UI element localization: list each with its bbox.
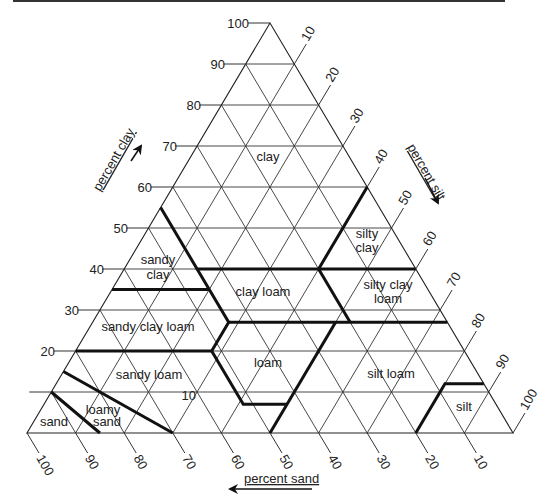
clay-tick-20: 20 (41, 344, 55, 359)
silt-tick-40: 40 (371, 146, 391, 166)
region-silt: silt (456, 399, 472, 414)
sand-tick-20: 20 (422, 452, 442, 472)
silt-tick-60: 60 (419, 228, 439, 248)
silt-tick-30: 30 (347, 105, 367, 125)
sand-tick-70: 70 (179, 452, 199, 472)
sand-tick-60: 60 (228, 452, 248, 472)
sand-tick-80: 80 (131, 452, 151, 472)
silt-axis-labels: 102030405060708090100 (298, 23, 541, 412)
sand-axis-title: percent sand (230, 471, 319, 489)
clay-tick-10: 10 (182, 388, 196, 403)
sand-tick-100: 100 (33, 452, 57, 478)
clay-tick-80: 80 (187, 98, 201, 113)
silt-tick-50: 50 (395, 187, 415, 207)
region-loamy-sand-2: sand (93, 414, 121, 429)
region-silty-clay-loam-1: silty clay (363, 277, 413, 292)
region-silty-clay-loam-2: loam (374, 291, 402, 306)
clay-tick-40: 40 (90, 262, 104, 277)
svg-text:percent clay: percent clay (90, 125, 138, 194)
silt-tick-10: 10 (298, 23, 318, 43)
silt-tick-20: 20 (322, 64, 342, 84)
clay-tick-60: 60 (138, 180, 152, 195)
region-clay-loam: clay loam (236, 284, 291, 299)
soil-texture-triangle: 10 20 30 40 50 60 70 80 90 100 102030405… (0, 0, 558, 504)
region-sandy-loam: sandy loam (116, 367, 182, 382)
sand-tick-90: 90 (82, 452, 102, 472)
region-silty-clay-2: clay (355, 240, 379, 255)
clay-tick-50: 50 (114, 221, 128, 236)
svg-text:percent sand: percent sand (244, 471, 319, 486)
region-clay: clay (256, 149, 280, 164)
silt-tick-90: 90 (492, 351, 512, 371)
silt-tick-70: 70 (444, 269, 464, 289)
sand-tick-10: 10 (471, 452, 491, 472)
clay-tick-90: 90 (211, 57, 225, 72)
clay-tick-100: 100 (227, 16, 249, 31)
sand-tick-30: 30 (374, 452, 394, 472)
region-sandy-clay-2: clay (146, 267, 170, 282)
region-loam: loam (254, 355, 282, 370)
silt-tick-100: 100 (517, 386, 541, 412)
region-sand: sand (40, 414, 68, 429)
region-sandy-clay-loam: sandy clay loam (101, 319, 194, 334)
region-silt-loam: silt loam (367, 366, 415, 381)
sand-tick-50: 50 (276, 452, 296, 472)
region-sandy-clay-1: sandy (141, 252, 176, 267)
silt-tick-80: 80 (468, 310, 488, 330)
clay-tick-70: 70 (163, 139, 177, 154)
clay-direction-arrow (131, 146, 141, 161)
clay-axis-title: percent clay (90, 125, 141, 194)
sand-tick-40: 40 (325, 452, 345, 472)
region-silty-clay-1: silty (356, 226, 379, 241)
clay-tick-30: 30 (65, 303, 79, 318)
